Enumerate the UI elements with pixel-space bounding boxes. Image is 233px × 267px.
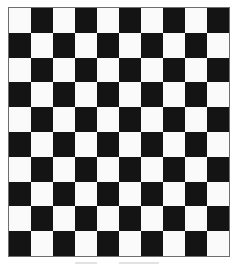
checkerboard [8,7,230,257]
dark-square [9,231,31,256]
dark-square [53,33,75,58]
dark-square [53,82,75,107]
light-square [141,58,163,83]
dark-square [163,58,185,83]
dark-square [119,58,141,83]
light-square [207,33,229,58]
dark-square [119,206,141,231]
dark-square [9,82,31,107]
dark-square [75,58,97,83]
dark-square [163,8,185,33]
dark-square [75,206,97,231]
caption-fragment [75,262,97,264]
dark-square [207,157,229,182]
light-square [163,182,185,207]
dark-square [31,58,53,83]
dark-square [141,33,163,58]
dark-square [185,182,207,207]
light-square [185,58,207,83]
dark-square [207,8,229,33]
light-square [185,107,207,132]
dark-square [141,132,163,157]
dark-square [31,107,53,132]
dark-square [119,157,141,182]
dark-square [119,107,141,132]
light-square [31,132,53,157]
light-square [185,206,207,231]
dark-square [53,182,75,207]
dark-square [207,107,229,132]
dark-square [97,33,119,58]
light-square [53,8,75,33]
light-square [9,58,31,83]
light-square [31,231,53,256]
light-square [141,157,163,182]
dark-square [207,206,229,231]
dark-square [141,182,163,207]
light-square [31,182,53,207]
dark-square [163,157,185,182]
dark-square [185,33,207,58]
light-square [141,8,163,33]
light-square [9,206,31,231]
light-square [53,157,75,182]
dark-square [97,82,119,107]
light-square [75,182,97,207]
faint-caption [0,258,233,267]
light-square [75,82,97,107]
light-square [31,33,53,58]
light-square [119,82,141,107]
light-square [163,33,185,58]
dark-square [185,82,207,107]
light-square [53,58,75,83]
light-square [97,157,119,182]
light-square [97,58,119,83]
light-square [185,157,207,182]
light-square [9,157,31,182]
dark-square [75,107,97,132]
dark-square [163,206,185,231]
dark-square [53,132,75,157]
light-square [119,231,141,256]
dark-square [163,107,185,132]
dark-square [119,8,141,33]
light-square [53,206,75,231]
light-square [75,132,97,157]
dark-square [9,132,31,157]
dark-square [97,182,119,207]
light-square [119,182,141,207]
light-square [185,8,207,33]
dark-square [9,33,31,58]
dark-square [75,157,97,182]
light-square [31,82,53,107]
light-square [207,182,229,207]
light-square [207,231,229,256]
dark-square [141,231,163,256]
light-square [163,132,185,157]
light-square [75,231,97,256]
dark-square [97,132,119,157]
dark-square [31,206,53,231]
dark-square [141,82,163,107]
light-square [207,82,229,107]
dark-square [31,8,53,33]
light-square [207,132,229,157]
dark-square [53,231,75,256]
dark-square [185,231,207,256]
dark-square [97,231,119,256]
light-square [9,107,31,132]
light-square [163,231,185,256]
caption-fragment [119,262,159,264]
light-square [75,33,97,58]
dark-square [185,132,207,157]
light-square [119,33,141,58]
light-square [119,132,141,157]
light-square [141,107,163,132]
light-square [97,8,119,33]
dark-square [75,8,97,33]
light-square [53,107,75,132]
light-square [141,206,163,231]
light-square [9,8,31,33]
dark-square [31,157,53,182]
dark-square [207,58,229,83]
